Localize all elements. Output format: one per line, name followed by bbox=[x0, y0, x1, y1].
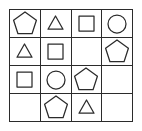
triangle-icon bbox=[16, 43, 33, 60]
square-outline bbox=[48, 44, 63, 59]
grid-cell-r4c1-empty bbox=[10, 94, 41, 122]
shape-grid bbox=[9, 9, 133, 122]
grid-cell-r3c1-square bbox=[10, 66, 41, 94]
grid-cell-r1c4-circle bbox=[102, 10, 133, 38]
grid-cell-r3c3-pentagon bbox=[72, 66, 103, 94]
grid-cell-r4c4-empty bbox=[102, 94, 133, 122]
circle-outline bbox=[108, 15, 126, 33]
circle-icon bbox=[107, 14, 127, 34]
pentagon-icon bbox=[12, 11, 38, 37]
grid-cell-r2c3-empty bbox=[72, 38, 103, 66]
grid-cell-r3c2-circle bbox=[41, 66, 72, 94]
pentagon-outline bbox=[44, 96, 67, 118]
square-icon bbox=[16, 71, 33, 88]
square-icon bbox=[47, 43, 64, 60]
pentagon-icon bbox=[104, 39, 130, 65]
square-outline bbox=[17, 72, 32, 87]
triangle-icon bbox=[78, 99, 95, 116]
circle-icon bbox=[46, 70, 66, 90]
grid-cell-r2c1-triangle bbox=[10, 38, 41, 66]
pentagon-icon bbox=[73, 67, 99, 93]
grid-cell-r4c3-triangle bbox=[72, 94, 103, 122]
pentagon-outline bbox=[106, 40, 129, 62]
pentagon-outline bbox=[13, 12, 36, 34]
square-outline bbox=[79, 16, 94, 31]
triangle-icon bbox=[47, 15, 64, 32]
grid-cell-r1c3-square bbox=[72, 10, 103, 38]
circle-outline bbox=[47, 71, 65, 89]
grid-cell-r2c2-square bbox=[41, 38, 72, 66]
shape-matrix-figure bbox=[0, 0, 142, 131]
grid-cell-r3c4-empty bbox=[102, 66, 133, 94]
grid-cell-r2c4-pentagon bbox=[102, 38, 133, 66]
grid-cell-r1c1-pentagon bbox=[10, 10, 41, 38]
square-icon bbox=[78, 15, 95, 32]
pentagon-outline bbox=[75, 68, 98, 90]
grid-cell-r1c2-triangle bbox=[41, 10, 72, 38]
grid-cell-r4c2-pentagon bbox=[41, 94, 72, 122]
triangle-outline bbox=[17, 44, 32, 57]
pentagon-icon bbox=[43, 95, 69, 121]
triangle-outline bbox=[79, 100, 94, 113]
triangle-outline bbox=[48, 16, 63, 29]
